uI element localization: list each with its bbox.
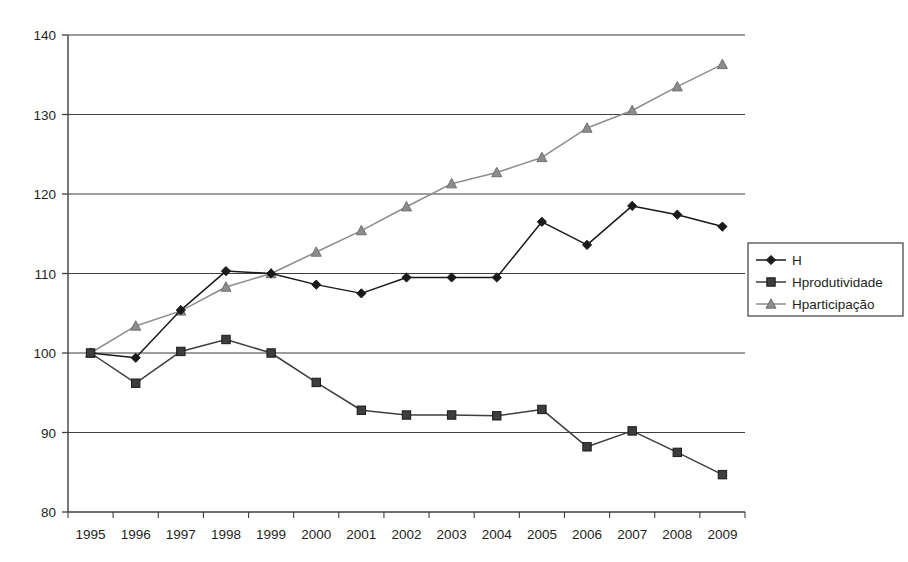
- legend-label: Hparticipação: [792, 297, 875, 312]
- x-tick-label: 2000: [301, 527, 331, 542]
- data-point-square: [538, 405, 546, 413]
- legend: HHprodutividadeHparticipação: [748, 243, 903, 316]
- line-chart: 8090100110120130140199519961997199819992…: [0, 0, 908, 562]
- x-tick-label: 2001: [346, 527, 376, 542]
- data-point-triangle: [672, 81, 682, 90]
- x-tick-label: 2009: [707, 527, 737, 542]
- x-tick-label: 1996: [121, 527, 151, 542]
- x-tick-label: 2006: [572, 527, 602, 542]
- x-tick-label: 1999: [256, 527, 286, 542]
- x-tick-label: 2003: [437, 527, 467, 542]
- data-point-square: [447, 411, 455, 419]
- data-point-triangle: [356, 225, 366, 234]
- x-tick-label: 1997: [166, 527, 196, 542]
- x-tick-label: 2004: [482, 527, 513, 542]
- x-axis-ticks: 1995199619971998199920002001200220032004…: [68, 512, 745, 542]
- gridlines: [68, 35, 745, 433]
- x-tick-label: 2007: [617, 527, 647, 542]
- data-point-diamond: [312, 280, 321, 289]
- series-line: [91, 339, 723, 474]
- x-tick-label: 2002: [391, 527, 421, 542]
- y-tick-label: 110: [34, 267, 56, 282]
- y-axis-ticks: 8090100110120130140: [33, 28, 68, 520]
- data-point-square: [673, 448, 681, 456]
- chart-canvas: 8090100110120130140199519961997199819992…: [0, 0, 908, 562]
- data-point-square: [177, 347, 185, 355]
- data-point-square: [583, 443, 591, 451]
- data-point-triangle: [537, 152, 547, 161]
- y-tick-label: 100: [33, 346, 56, 361]
- data-point-triangle: [311, 247, 321, 256]
- x-tick-label: 2005: [527, 527, 557, 542]
- x-tick-label: 1998: [211, 527, 241, 542]
- data-point-square: [493, 412, 501, 420]
- data-point-square: [86, 349, 94, 357]
- data-point-square: [718, 470, 726, 478]
- data-point-diamond: [402, 273, 411, 282]
- data-point-square: [132, 379, 140, 387]
- data-point-square: [357, 406, 365, 414]
- y-tick-label: 120: [33, 187, 56, 202]
- legend-label: Hprodutividade: [792, 275, 883, 290]
- data-point-triangle: [582, 123, 592, 132]
- data-point-square: [267, 349, 275, 357]
- x-tick-label: 2008: [662, 527, 692, 542]
- data-point-diamond: [673, 210, 682, 219]
- data-point-square: [767, 278, 775, 286]
- y-tick-label: 140: [33, 28, 56, 43]
- series-Hprodutividade: [86, 335, 726, 479]
- data-point-triangle: [627, 105, 637, 114]
- data-point-square: [628, 427, 636, 435]
- data-point-square: [402, 411, 410, 419]
- x-tick-label: 1995: [76, 527, 106, 542]
- data-point-diamond: [357, 289, 366, 298]
- data-point-diamond: [718, 222, 727, 231]
- y-tick-label: 80: [41, 505, 56, 520]
- series-H: [86, 201, 727, 362]
- data-point-diamond: [447, 273, 456, 282]
- y-tick-label: 130: [33, 108, 56, 123]
- legend-label: H: [792, 253, 802, 268]
- y-tick-label: 90: [41, 426, 56, 441]
- data-point-square: [222, 335, 230, 343]
- data-point-square: [312, 378, 320, 386]
- data-point-triangle: [402, 202, 412, 211]
- data-point-triangle: [717, 59, 727, 68]
